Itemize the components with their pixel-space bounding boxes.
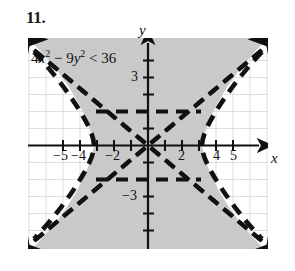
equation-minus: −: [54, 50, 62, 66]
x-tick-label--2: −2: [105, 148, 120, 164]
x-tick-label-4: 4: [213, 148, 220, 164]
y-axis-label: y: [139, 22, 146, 39]
equation-exp-x: 2: [45, 48, 50, 59]
y-tick-label-3: 3: [131, 69, 138, 85]
x-tick-label--5: −5: [53, 148, 68, 164]
x-tick-label--4: −4: [71, 148, 86, 164]
axes-and-curves: [28, 38, 268, 249]
equation-relation: <: [89, 50, 97, 66]
equation-exp-y: 2: [80, 48, 85, 59]
figure-root: 11.: [0, 0, 295, 271]
equation-constant: 36: [101, 50, 116, 66]
x-axis-label: x: [271, 150, 278, 167]
x-tick-label-5: 5: [230, 148, 237, 164]
y-tick-label--3: −3: [122, 188, 137, 204]
inequality-label: 4x2 − 9y2 < 36: [31, 48, 116, 67]
equation-coef-b: 9: [66, 50, 74, 66]
x-tick-label-2: 2: [178, 148, 185, 164]
equation-coef-a: 4: [31, 50, 39, 66]
problem-number: 11.: [26, 8, 45, 28]
graph-plot-area: 4x2 − 9y2 < 36 −5 −4 −2 2 4 5 3 −3: [28, 38, 268, 249]
